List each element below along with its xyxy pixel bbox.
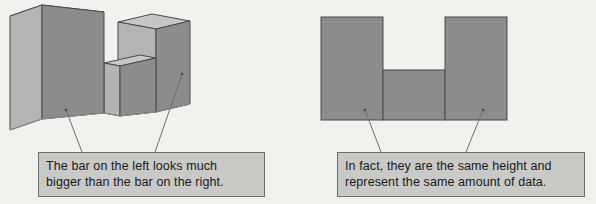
leader-anchor-right-bar xyxy=(482,109,485,112)
bar-3d-left-front-face xyxy=(42,5,104,119)
bar-3d-left xyxy=(10,5,104,130)
bar-3d-right-front-face xyxy=(156,21,190,112)
bar-2d-right xyxy=(445,17,507,120)
bar-3d-middle-front-face xyxy=(120,58,156,116)
bar-2d-middle xyxy=(383,70,445,120)
caption-box-right: In fact, they are the same height and re… xyxy=(337,152,585,197)
bar-3d-middle xyxy=(104,55,156,116)
bar-2d-left xyxy=(321,17,383,120)
leader-anchor-left-bar xyxy=(364,109,367,112)
bar-3d-left-left-face xyxy=(10,5,42,130)
bar-3d-middle-left-face xyxy=(104,63,120,116)
figure-canvas: The bar on the left looks much bigger th… xyxy=(0,0,596,204)
leader-anchor-right-bar xyxy=(181,73,184,76)
caption-box-left: The bar on the left looks much bigger th… xyxy=(38,152,265,197)
leader-anchor-left-bar xyxy=(65,109,68,112)
